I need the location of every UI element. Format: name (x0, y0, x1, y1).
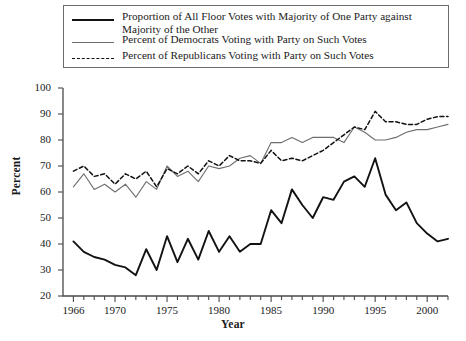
x-tick-label: 1985 (251, 305, 291, 316)
y-tick-label: 50 (25, 212, 51, 223)
x-tick-label: 1975 (147, 305, 187, 316)
legend-swatch-thin-solid-line-icon (70, 36, 116, 49)
legend-entry-floor-votes: Proportion of All Floor Votes with Major… (70, 10, 442, 35)
legend-swatch-thick-solid-line-icon (70, 13, 116, 26)
legend-label-democrats: Percent of Democrats Voting with Party o… (122, 33, 367, 46)
legend-label-republicans: Percent of Republicans Voting with Party… (122, 49, 374, 62)
y-tick-label: 60 (25, 186, 51, 197)
y-axis-title: Percent (10, 141, 22, 211)
x-tick-label: 1990 (303, 305, 343, 316)
y-tick-label: 80 (25, 134, 51, 145)
y-tick-label: 30 (25, 264, 51, 275)
series-line-3 (73, 111, 448, 186)
y-tick-label: 20 (25, 290, 51, 301)
y-tick-label: 90 (25, 108, 51, 119)
series-line-1 (73, 158, 448, 275)
x-axis-title: Year (0, 318, 466, 330)
y-tick-label: 70 (25, 160, 51, 171)
chart-figure: Proportion of All Floor Votes with Major… (0, 0, 466, 341)
x-tick-label: 1970 (95, 305, 135, 316)
y-tick-label: 40 (25, 238, 51, 249)
legend-entry-democrats: Percent of Democrats Voting with Party o… (70, 33, 367, 49)
x-tick-label: 1980 (199, 305, 239, 316)
x-tick-label: 1995 (355, 305, 395, 316)
legend-swatch-dashed-line-icon (70, 52, 116, 65)
y-tick-label: 100 (25, 82, 51, 93)
axis-ticks (58, 88, 448, 302)
x-tick-label: 2000 (407, 305, 447, 316)
series-line-2 (73, 124, 448, 197)
x-tick-label: 1966 (53, 305, 93, 316)
legend-entry-republicans: Percent of Republicans Voting with Party… (70, 49, 374, 65)
legend-label-floor-votes: Proportion of All Floor Votes with Major… (122, 10, 442, 35)
chart-legend: Proportion of All Floor Votes with Major… (63, 5, 449, 68)
